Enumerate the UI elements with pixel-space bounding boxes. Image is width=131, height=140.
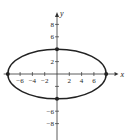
ticks: −6−4−2246862−6−8 bbox=[16, 21, 96, 128]
ellipse-chart: −6−4−2246862−6−8 x y bbox=[0, 0, 131, 140]
y-tick-label: −6 bbox=[47, 108, 55, 116]
y-tick-label: 2 bbox=[51, 58, 55, 66]
y-tick-label: 6 bbox=[51, 33, 55, 41]
x-axis-label: x bbox=[120, 70, 125, 79]
vertex-point bbox=[104, 72, 108, 76]
y-tick-label: 8 bbox=[51, 21, 55, 29]
vertex-point bbox=[55, 47, 59, 51]
x-axis-arrow bbox=[115, 72, 119, 76]
x-tick-label: 2 bbox=[68, 77, 72, 85]
x-tick-label: −4 bbox=[29, 77, 37, 85]
x-tick-label: −2 bbox=[41, 77, 49, 85]
vertex-point bbox=[55, 97, 59, 101]
vertex-point bbox=[6, 72, 10, 76]
x-tick-label: −6 bbox=[16, 77, 24, 85]
y-tick-label: −8 bbox=[47, 120, 55, 128]
x-tick-label: 6 bbox=[92, 77, 96, 85]
y-axis-arrow bbox=[55, 12, 59, 17]
axes bbox=[4, 12, 119, 140]
y-axis-label: y bbox=[59, 9, 64, 18]
x-tick-label: 4 bbox=[80, 77, 84, 85]
